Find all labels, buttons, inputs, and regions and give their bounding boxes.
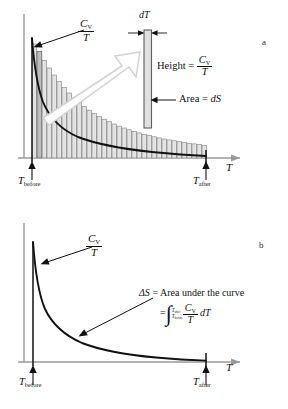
integral-lower-limit: Tbefore [172, 314, 183, 320]
panel-b-integral-line: =∫ Tafter Tbefore CV T dT [160, 303, 211, 325]
panel-a-x-axis-arrowhead [231, 154, 240, 161]
panel-b-curve-leader [41, 247, 93, 265]
panel-b-graphic [0, 205, 288, 409]
panel-a-letter: a [262, 32, 266, 48]
panel-b-x-axis-arrowhead [231, 358, 240, 365]
panel-b-area-leader [79, 298, 154, 337]
panel-b-curve [33, 242, 206, 361]
panel-a-x-axis-label: T [226, 162, 232, 173]
panel-a-height-label: Height = CV T [157, 55, 212, 78]
panel-b-delta-s-line: ΔS = Area under the curve [139, 288, 244, 298]
panel-a-dt-label: dT [139, 10, 150, 20]
panel-a-tbefore-label: Tbefore [18, 176, 40, 187]
panel-a-highlighted-strip [37, 52, 42, 159]
panel-b-tafter-label: Tafter [193, 377, 211, 388]
panel-a-area-leader [151, 97, 177, 103]
panel-b-curve-label: CV T [86, 233, 102, 258]
panel-b-tbefore-label: Tbefore [19, 377, 41, 388]
panel-b-x-axis-label: T [226, 362, 232, 373]
panel-a-inset-strip [144, 30, 152, 128]
entropy-figure: a CV T dT Height = CV T Area = dS T Tbef… [0, 0, 288, 409]
panel-a-area-label: Area = dS [179, 94, 221, 105]
panel-a-tafter-label: Tafter [193, 176, 211, 187]
panel-a-curve-leader [34, 30, 85, 48]
panel-a-graphic [0, 0, 288, 205]
panel-a-curve-label: CV T [78, 18, 94, 43]
panel-b-letter: b [259, 235, 264, 251]
